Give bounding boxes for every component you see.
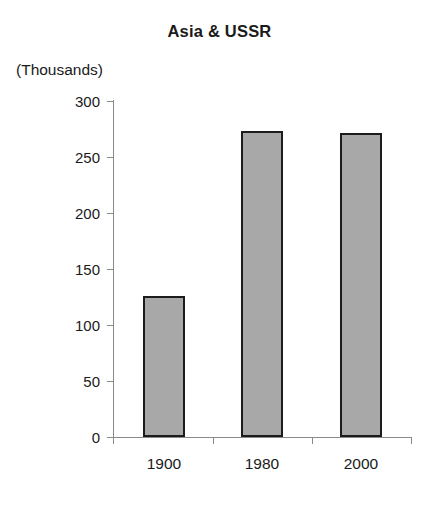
y-tick-label-250: 250 — [54, 150, 100, 165]
y-tick-mark-50 — [107, 381, 114, 382]
x-tick-mark-2 — [312, 437, 313, 444]
y-tick-label-50: 50 — [54, 374, 100, 389]
y-tick-mark-200 — [107, 213, 114, 214]
bar-2000 — [340, 133, 382, 437]
y-tick-mark-150 — [107, 269, 114, 270]
y-tick-label-300: 300 — [54, 94, 100, 109]
y-tick-label-0: 0 — [54, 430, 100, 445]
bar-1900 — [143, 296, 185, 437]
y-tick-label-200: 200 — [54, 206, 100, 221]
x-tick-mark-3 — [411, 437, 412, 444]
x-tick-label-1980: 1980 — [217, 455, 307, 473]
x-tick-label-2000: 2000 — [316, 455, 406, 473]
x-tick-mark-0 — [113, 437, 114, 444]
bar-1980 — [241, 131, 283, 437]
y-tick-label-100: 100 — [54, 318, 100, 333]
x-tick-label-1900: 1900 — [119, 455, 209, 473]
plot-area: 300 250 200 150 100 50 0 1900 1980 — [0, 0, 441, 506]
y-tick-mark-300 — [107, 101, 114, 102]
y-tick-label-150: 150 — [54, 262, 100, 277]
x-tick-mark-1 — [213, 437, 214, 444]
x-axis-line — [113, 437, 412, 438]
y-tick-mark-250 — [107, 157, 114, 158]
y-tick-mark-100 — [107, 325, 114, 326]
chart-figure: Asia & USSR (Thousands) 300 250 200 150 … — [0, 0, 441, 506]
